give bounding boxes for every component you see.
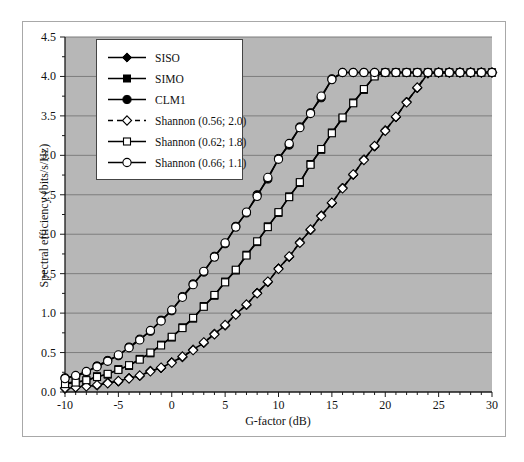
marker-circle — [424, 68, 432, 76]
marker-square — [243, 252, 250, 259]
marker-circle — [232, 223, 240, 231]
legend-square-glyph — [124, 138, 131, 145]
marker-circle — [264, 173, 272, 181]
siso-swatch-icon — [105, 50, 149, 65]
marker-circle — [189, 281, 197, 289]
marker-circle — [370, 68, 378, 76]
marker-circle — [82, 367, 90, 375]
marker-circle — [136, 336, 144, 344]
marker-square — [275, 209, 282, 216]
marker-circle — [392, 68, 400, 76]
marker-square — [339, 114, 346, 121]
marker-square — [136, 356, 143, 363]
marker-square — [360, 86, 367, 93]
marker-circle — [349, 68, 357, 76]
marker-circle — [61, 374, 69, 382]
x-tick-label: 30 — [486, 398, 498, 412]
marker-square — [254, 238, 261, 245]
marker-circle — [488, 68, 496, 76]
y-tick-label: 4.5 — [41, 30, 56, 44]
legend-label: SISO — [155, 52, 180, 64]
marker-circle — [285, 139, 293, 147]
marker-square — [200, 303, 207, 310]
marker-square — [307, 161, 314, 168]
clm1-swatch-icon — [105, 92, 149, 107]
legend-square-glyph — [124, 75, 131, 82]
marker-circle — [317, 92, 325, 100]
marker-square — [222, 279, 229, 286]
chart-legend: SISO SIMO CLM1 Shannon (0.56; 2.0) Shann… — [96, 39, 243, 180]
legend-item-siso: SISO — [105, 47, 242, 68]
y-tick-label: 0.5 — [41, 346, 56, 360]
x-tick-label: 0 — [169, 398, 175, 412]
marker-square — [158, 342, 165, 349]
marker-circle — [200, 267, 208, 275]
marker-square — [264, 224, 271, 231]
legend-item-shannon-056: Shannon (0.56; 2.0) — [105, 110, 242, 131]
marker-circle — [413, 68, 421, 76]
x-axis-title: G-factor (dB) — [0, 414, 524, 429]
marker-square — [286, 194, 293, 201]
x-tick-label: 5 — [222, 398, 228, 412]
legend-item-shannon-066: Shannon (0.66; 1.1) — [105, 152, 242, 173]
marker-circle — [168, 306, 176, 314]
shannon-066-swatch-icon — [105, 155, 149, 170]
marker-circle — [157, 317, 165, 325]
legend-label: CLM1 — [155, 94, 186, 106]
marker-square — [232, 266, 239, 273]
legend-label: Shannon (0.56; 2.0) — [155, 115, 246, 127]
simo-swatch-icon — [105, 71, 149, 86]
marker-circle — [456, 68, 464, 76]
marker-circle — [72, 371, 80, 379]
marker-circle — [360, 68, 368, 76]
marker-circle — [381, 68, 389, 76]
marker-square — [328, 130, 335, 137]
marker-circle — [467, 68, 475, 76]
y-tick-label: 4.0 — [41, 69, 56, 83]
shannon-062-swatch-icon — [105, 134, 149, 149]
marker-circle — [435, 68, 443, 76]
marker-circle — [93, 363, 101, 371]
marker-square — [94, 374, 101, 381]
marker-square — [350, 100, 357, 107]
y-axis-title: Spectral efficiency (bits/s/Hz) — [37, 101, 52, 331]
legend-label: Shannon (0.62; 1.8) — [155, 136, 246, 148]
legend-circle-glyph — [123, 158, 131, 166]
x-tick-label: -5 — [113, 398, 123, 412]
marker-circle — [178, 293, 186, 301]
legend-item-simo: SIMO — [105, 68, 242, 89]
marker-circle — [274, 155, 282, 163]
legend-item-clm1: CLM1 — [105, 89, 242, 110]
x-tick-label: 15 — [326, 398, 338, 412]
marker-circle — [146, 326, 154, 334]
marker-circle — [221, 239, 229, 247]
marker-circle — [477, 68, 485, 76]
marker-square — [168, 333, 175, 340]
marker-circle — [403, 68, 411, 76]
marker-square — [190, 314, 197, 321]
marker-square — [147, 349, 154, 356]
marker-square — [104, 370, 111, 377]
x-tick-label: 10 — [273, 398, 285, 412]
legend-item-shannon-062: Shannon (0.62; 1.8) — [105, 131, 242, 152]
marker-circle — [306, 109, 314, 117]
marker-circle — [328, 76, 336, 84]
marker-circle — [445, 68, 453, 76]
marker-square — [179, 325, 186, 332]
legend-label: SIMO — [155, 73, 184, 85]
marker-circle — [104, 357, 112, 365]
marker-square — [318, 146, 325, 153]
marker-square — [296, 179, 303, 186]
marker-circle — [114, 351, 122, 359]
marker-square — [211, 291, 218, 298]
marker-circle — [125, 344, 133, 352]
x-tick-label: 25 — [433, 398, 445, 412]
legend-diamond-glyph — [122, 116, 131, 125]
marker-circle — [242, 208, 250, 216]
marker-square — [115, 366, 122, 373]
x-tick-label: 20 — [379, 398, 391, 412]
marker-circle — [296, 124, 304, 132]
marker-square — [83, 377, 90, 384]
legend-label: Shannon (0.66; 1.1) — [155, 157, 246, 169]
legend-diamond-glyph — [122, 53, 131, 62]
